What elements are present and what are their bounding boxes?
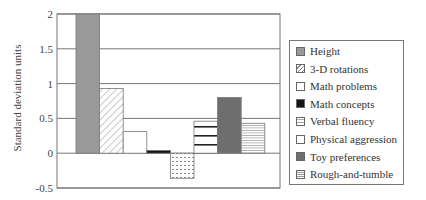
legend-item: Verbal fluency [296,114,374,128]
y-tick-label: 0 [48,147,54,159]
legend: Height3-D rotationsMath problemsMath con… [289,40,404,185]
legend-item: Math problems [296,79,377,93]
legend-item: Rough-and-tumble [296,167,393,181]
legend-label: Rough-and-tumble [310,168,393,180]
legend-item: Height [296,44,340,58]
legend-label: Math concepts [310,98,374,110]
legend-item: 3-D rotations [296,62,368,76]
legend-label: Math problems [310,80,377,92]
legend-label: Verbal fluency [310,115,374,127]
y-tick-label: 1.5 [39,43,53,55]
legend-label: Height [310,45,340,57]
bar-verbal-fluency [170,153,194,178]
legend-swatch [296,135,305,144]
bar-height [76,14,100,153]
legend-swatch [296,99,305,108]
y-tick-label: 1 [48,78,54,90]
legend-swatch [296,117,305,126]
bar-toy-preferences [218,98,242,154]
legend-swatch [296,47,305,56]
bar-rough-and-tumble [241,123,265,153]
legend-swatch [296,82,305,91]
bar-math-concepts [147,150,171,153]
y-tick-label: 0.5 [39,112,53,124]
y-axis-ticks: 21.510.50-0.5 [36,8,54,194]
bar-physical-aggression [194,121,218,153]
legend-label: Toy preferences [310,151,380,163]
legend-item: Toy preferences [296,150,380,164]
legend-label: Physical aggression [310,133,397,145]
legend-swatch [296,170,305,179]
bar-math-problems [123,132,147,154]
y-tick-label: 2 [48,8,54,20]
y-axis-label: Standard deviation units [11,43,23,153]
legend-swatch [296,152,305,161]
legend-item: Physical aggression [296,132,397,146]
legend-swatch [296,64,305,73]
legend-label: 3-D rotations [310,63,368,75]
legend-item: Math concepts [296,97,374,111]
bar-3-d-rotations [100,88,124,153]
y-tick-label: -0.5 [36,182,54,194]
